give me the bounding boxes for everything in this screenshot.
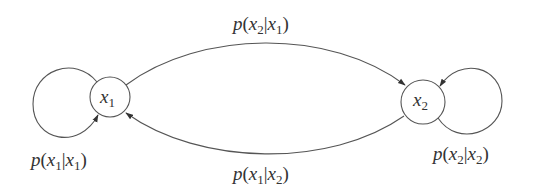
diagram-svg: p(x2|x1) p(x1|x2) p(x1|x1) p(x2|x2) x1 x…: [0, 0, 533, 194]
edge-x1-self-loop: p(x1|x1): [29, 68, 98, 173]
self-loop-x1: [33, 68, 98, 137]
self-loop-x2: [438, 68, 502, 134]
edge-x1-to-x2: p(x2|x1): [126, 13, 405, 85]
state-node-x1: x1: [90, 77, 130, 117]
edge-x2-to-x1: p(x1|x2): [126, 113, 404, 187]
markov-chain-diagram: p(x2|x1) p(x1|x2) p(x1|x1) p(x2|x2) x1 x…: [0, 0, 533, 194]
edge-label-x1-given-x1: p(x1|x1): [29, 149, 87, 173]
arrow-x1-to-x2: [126, 43, 405, 85]
state-node-x2: x2: [401, 80, 445, 124]
edge-label-x2-given-x2: p(x2|x2): [431, 143, 489, 167]
edge-x2-self-loop: p(x2|x2): [431, 68, 502, 167]
edge-label-x1-given-x2: p(x1|x2): [231, 163, 289, 187]
edge-label-x2-given-x1: p(x2|x1): [231, 13, 289, 37]
arrow-x2-to-x1: [126, 113, 404, 154]
